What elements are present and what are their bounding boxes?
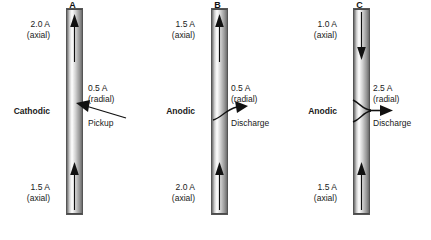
radial-label: 0.5 A (radial) [231,83,257,104]
electrode-mode-label: Cathodic [14,106,50,117]
axial-arrow-top [211,12,228,62]
diagram-canvas: 2.0 A (axial) Cathodic 1.5 A (axial) 0.5… [0,0,431,240]
radial-action-label: Discharge [373,118,411,129]
radial-label: 0.5 A (radial) [88,83,114,104]
axial-arrow-bottom [353,160,370,210]
radial-action-label: Discharge [231,118,269,129]
axial-arrow-bottom [66,160,83,210]
electrode-mode-label: Anodic [308,106,337,117]
electrode-panel-c: 1.0 A (axial) Anodic 1.5 A (axial) 2.5 A… [287,0,431,240]
axial-arrow-top [353,12,370,62]
axial-label-bottom: 1.5 A (axial) [27,182,50,203]
axial-label-top: 1.5 A (axial) [172,19,195,40]
axial-label-bottom: 1.5 A (axial) [314,182,337,203]
axial-label-bottom: 2.0 A (axial) [172,182,195,203]
radial-label: 2.5 A (radial) [373,83,399,104]
electrode-panel-b: 1.5 A (axial) Anodic 2.0 A (axial) 0.5 A… [145,0,290,240]
axial-label-top: 2.0 A (axial) [27,19,50,40]
axial-label-top: 1.0 A (axial) [314,19,337,40]
axial-arrow-bottom [211,160,228,210]
axial-arrow-top [66,12,83,62]
electrode-panel-a: 2.0 A (axial) Cathodic 1.5 A (axial) 0.5… [0,0,145,240]
radial-action-label: Pickup [88,118,114,129]
electrode-mode-label: Anodic [166,106,195,117]
